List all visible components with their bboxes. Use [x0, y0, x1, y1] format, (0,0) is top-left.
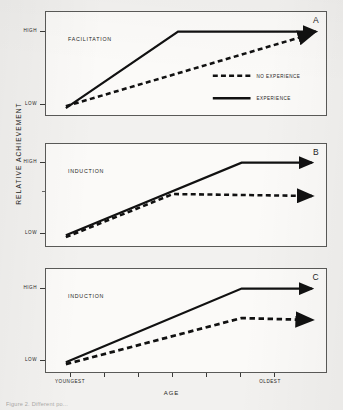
figure-container: NO EXPERIENCE EXPERIENCE A FACILITATION …: [0, 0, 343, 410]
panel-b-plot: [46, 144, 326, 246]
panel-letter-a: A: [313, 15, 319, 25]
panel-c-plot: [46, 269, 326, 372]
y-tick-label-high-a: HIGH: [3, 28, 37, 33]
panel-a: NO EXPERIENCE EXPERIENCE A FACILITATION: [45, 11, 327, 116]
panel-caption-b: INDUCTION: [68, 168, 104, 174]
series-no-experience-c: [66, 318, 312, 364]
y-tick-mark-mid-b: [42, 191, 45, 192]
x-tick-mark-4: [172, 373, 173, 377]
y-tick-label-high-b: HIGH: [3, 159, 37, 164]
x-tick-mark-2: [104, 373, 105, 377]
x-tick-mark-1: [70, 373, 71, 377]
x-tick-label-youngest: YOUNGEST: [55, 379, 85, 384]
panel-letter-b: B: [313, 147, 319, 157]
y-tick-mark-high-c: [40, 288, 45, 289]
x-tick-mark-7: [274, 373, 275, 377]
x-axis-label: AGE: [0, 390, 343, 396]
series-no-experience-a: [66, 34, 313, 107]
panel-c: C INDUCTION: [45, 268, 327, 373]
y-tick-label-low-a: LOW: [3, 101, 37, 106]
y-tick-label-low-c: LOW: [3, 357, 37, 362]
y-tick-mark-high-b: [40, 162, 45, 163]
panel-b: B INDUCTION: [45, 143, 327, 247]
y-tick-label-high-c: HIGH: [3, 285, 37, 290]
figure-caption: Figure 2. Different po...: [6, 401, 68, 407]
legend-label-experience: EXPERIENCE: [256, 96, 290, 101]
y-tick-label-low-b: LOW: [3, 230, 37, 235]
series-experience-c: [66, 289, 312, 363]
y-tick-mark-low-b: [40, 233, 45, 234]
legend-label-no-experience: NO EXPERIENCE: [256, 74, 300, 79]
panel-caption-a: FACILITATION: [68, 36, 112, 42]
panel-a-plot: NO EXPERIENCE EXPERIENCE: [46, 12, 326, 115]
x-tick-label-oldest: OLDEST: [259, 379, 281, 384]
x-tick-mark-3: [138, 373, 139, 377]
x-tick-mark-6: [240, 373, 241, 377]
panel-caption-c: INDUCTION: [68, 293, 104, 299]
y-axis-label: RELATIVE ACHIEVEMENT: [15, 99, 22, 209]
panel-letter-c: C: [313, 272, 319, 282]
y-tick-mark-low-a: [40, 104, 45, 105]
series-no-experience-b: [66, 194, 312, 237]
x-tick-mark-5: [206, 373, 207, 377]
y-tick-mark-high-a: [40, 31, 45, 32]
y-tick-mark-low-c: [40, 360, 45, 361]
